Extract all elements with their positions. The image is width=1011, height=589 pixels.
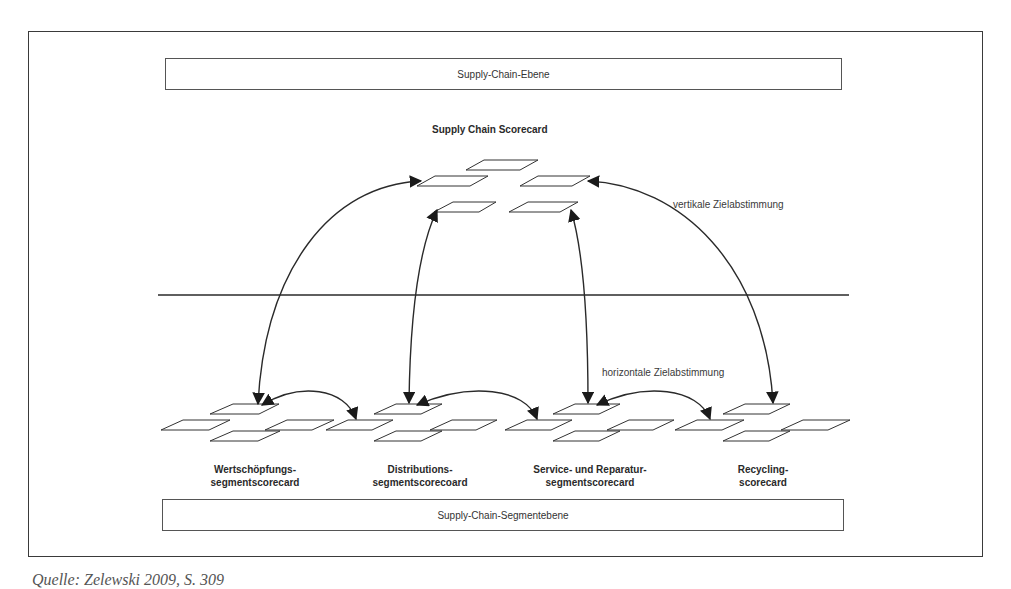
supply-chain-segment-level-label: Supply-Chain-Segmentebene <box>437 510 568 521</box>
supply-chain-segment-level-box: Supply-Chain-Segmentebene <box>162 499 844 531</box>
segment-card <box>675 420 744 430</box>
segment-card <box>723 431 790 441</box>
segment-card <box>161 420 230 430</box>
segment-label-recycling: Recycling- scorecard <box>678 463 848 489</box>
horizontal-alignment-arrows <box>262 391 710 419</box>
scorecard-card <box>434 202 496 212</box>
segment-card <box>723 404 790 414</box>
supply-chain-scorecard-cards <box>417 160 590 212</box>
segment-card <box>374 404 442 414</box>
figure-caption: Quelle: Zelewski 2009, S. 309 <box>32 571 224 589</box>
segment-card <box>781 420 850 430</box>
segment-card <box>210 404 279 414</box>
segment-label-service: Service- und Reparatur- segmentscorecard <box>505 463 675 489</box>
segment-card <box>265 420 334 430</box>
segment-card <box>430 420 497 430</box>
segment-card <box>553 431 620 441</box>
segment-card <box>607 420 674 430</box>
vertical-arrow-service <box>571 210 588 403</box>
segment-scorecard-group-4 <box>675 404 850 441</box>
vertical-alignment-arrows <box>258 181 773 404</box>
scorecard-card <box>417 176 488 186</box>
vertical-arrow-distribution <box>409 210 437 403</box>
scorecard-card <box>509 202 578 212</box>
segment-card <box>505 420 572 430</box>
scorecard-card <box>520 176 590 186</box>
segment-card <box>374 431 442 441</box>
vertical-arrow-recycling <box>588 181 773 403</box>
segment-label-wertschoepfung: Wertschöpfungs- segmentscorecard <box>170 463 340 489</box>
segment-label-distribution: Distributions- segmentscorecoard <box>335 463 505 489</box>
segment-card <box>210 431 280 441</box>
segment-card <box>553 404 620 414</box>
segment-card <box>326 420 393 430</box>
segment-scorecard-group-3 <box>505 404 674 441</box>
segment-scorecard-group-1 <box>161 404 334 441</box>
scorecard-card <box>466 160 538 170</box>
vertical-arrow-wertschoepfung <box>258 181 421 404</box>
